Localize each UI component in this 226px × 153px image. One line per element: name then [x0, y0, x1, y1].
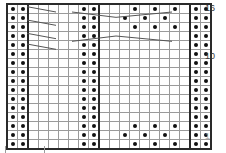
cell-purl[interactable] [140, 131, 150, 140]
cell-knit[interactable] [130, 59, 140, 68]
cell-purl[interactable] [79, 131, 89, 140]
cell-knit[interactable] [49, 4, 59, 14]
cell-knit[interactable] [39, 23, 49, 32]
cell-purl[interactable] [201, 86, 212, 95]
cell-purl[interactable] [18, 32, 29, 41]
cell-knit[interactable] [140, 104, 150, 113]
cell-knit[interactable] [180, 59, 191, 68]
cell-knit[interactable] [99, 122, 110, 131]
cell-knit[interactable] [170, 50, 180, 59]
cell-purl[interactable] [190, 104, 201, 113]
cell-purl[interactable] [7, 23, 18, 32]
cell-knit[interactable] [150, 50, 160, 59]
cell-knit[interactable] [150, 68, 160, 77]
cell-knit[interactable] [150, 131, 160, 140]
cell-knit[interactable] [28, 32, 39, 41]
cell-knit[interactable] [69, 86, 79, 95]
cell-knit[interactable] [110, 122, 120, 131]
cell-knit[interactable] [28, 4, 39, 14]
cell-purl[interactable] [190, 68, 201, 77]
cell-knit[interactable] [99, 140, 110, 150]
cell-knit[interactable] [69, 59, 79, 68]
cell-purl[interactable] [89, 23, 100, 32]
cell-purl[interactable] [18, 122, 29, 131]
cell-knit[interactable] [120, 104, 130, 113]
cell-purl[interactable] [201, 95, 212, 104]
cell-knit[interactable] [150, 95, 160, 104]
cell-knit[interactable] [160, 50, 170, 59]
cell-purl[interactable] [190, 32, 201, 41]
cell-purl[interactable] [18, 77, 29, 86]
cell-knit[interactable] [120, 41, 130, 50]
cell-knit[interactable] [39, 86, 49, 95]
cell-knit[interactable] [59, 77, 69, 86]
cell-knit[interactable] [110, 77, 120, 86]
cell-knit[interactable] [160, 86, 170, 95]
cell-knit[interactable] [39, 59, 49, 68]
cell-knit[interactable] [59, 41, 69, 50]
cell-knit[interactable] [130, 50, 140, 59]
cell-knit[interactable] [130, 32, 140, 41]
cell-knit[interactable] [39, 131, 49, 140]
cell-knit[interactable] [160, 68, 170, 77]
cell-knit[interactable] [150, 77, 160, 86]
cell-knit[interactable] [140, 4, 150, 14]
cell-purl[interactable] [18, 104, 29, 113]
cell-knit[interactable] [99, 77, 110, 86]
cell-knit[interactable] [180, 23, 191, 32]
cell-knit[interactable] [39, 4, 49, 14]
cell-knit[interactable] [110, 50, 120, 59]
cell-purl[interactable] [7, 50, 18, 59]
cell-purl[interactable] [79, 23, 89, 32]
cell-knit[interactable] [49, 86, 59, 95]
cell-knit[interactable] [170, 113, 180, 122]
cell-knit[interactable] [130, 68, 140, 77]
cell-knit[interactable] [110, 140, 120, 150]
cell-knit[interactable] [69, 41, 79, 50]
cell-knit[interactable] [39, 14, 49, 23]
cell-knit[interactable] [59, 23, 69, 32]
cell-knit[interactable] [99, 41, 110, 50]
cell-purl[interactable] [190, 140, 201, 150]
cell-purl[interactable] [190, 23, 201, 32]
cell-purl[interactable] [89, 122, 100, 131]
cell-knit[interactable] [120, 122, 130, 131]
cell-knit[interactable] [49, 23, 59, 32]
cell-purl[interactable] [18, 23, 29, 32]
cell-knit[interactable] [69, 131, 79, 140]
cell-purl[interactable] [190, 113, 201, 122]
cell-knit[interactable] [28, 113, 39, 122]
cell-knit[interactable] [39, 50, 49, 59]
cell-knit[interactable] [140, 95, 150, 104]
cell-knit[interactable] [59, 104, 69, 113]
cell-knit[interactable] [170, 131, 180, 140]
cell-purl[interactable] [190, 95, 201, 104]
cell-knit[interactable] [140, 68, 150, 77]
cell-knit[interactable] [160, 32, 170, 41]
cell-knit[interactable] [59, 50, 69, 59]
cell-purl[interactable] [170, 140, 180, 150]
cell-knit[interactable] [28, 95, 39, 104]
cell-knit[interactable] [180, 95, 191, 104]
cell-knit[interactable] [130, 41, 140, 50]
cell-knit[interactable] [49, 77, 59, 86]
cell-knit[interactable] [110, 41, 120, 50]
cell-knit[interactable] [39, 104, 49, 113]
cell-knit[interactable] [150, 14, 160, 23]
cell-knit[interactable] [69, 77, 79, 86]
cell-knit[interactable] [150, 104, 160, 113]
cell-knit[interactable] [99, 14, 110, 23]
cell-purl[interactable] [18, 4, 29, 14]
cell-purl[interactable] [130, 140, 140, 150]
cell-knit[interactable] [120, 77, 130, 86]
cell-knit[interactable] [150, 86, 160, 95]
cell-purl[interactable] [79, 77, 89, 86]
cell-knit[interactable] [49, 95, 59, 104]
cell-knit[interactable] [140, 23, 150, 32]
cell-purl[interactable] [150, 4, 160, 14]
cell-purl[interactable] [89, 140, 100, 150]
cell-knit[interactable] [130, 95, 140, 104]
cell-knit[interactable] [28, 86, 39, 95]
cell-purl[interactable] [7, 68, 18, 77]
cell-purl[interactable] [18, 113, 29, 122]
